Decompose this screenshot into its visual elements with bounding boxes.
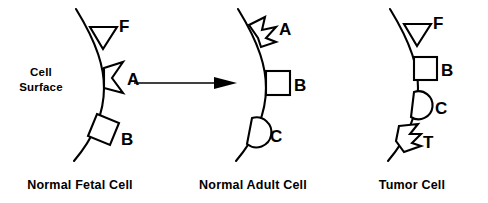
jagged-zigzag-icon	[396, 124, 421, 152]
marker-glyph-b	[414, 57, 437, 80]
marker-label-b: B	[294, 76, 306, 95]
panel-normal-adult-cell: A B C Normal Adult Cell	[199, 9, 307, 192]
figure-canvas: F A B Cell Surface Normal Fetal Cell	[0, 0, 488, 203]
marker-label-f: F	[119, 17, 129, 36]
marker-label-c: C	[270, 127, 282, 146]
square-icon	[266, 71, 290, 95]
transition-arrow	[134, 77, 237, 89]
marker-label-c: C	[435, 99, 447, 118]
panel-caption-normal-fetal-cell: Normal Fetal Cell	[27, 178, 133, 192]
tilted-square-icon	[88, 114, 119, 145]
marker-glyph-b	[88, 114, 119, 145]
marker-label-f: F	[433, 14, 443, 33]
semicircle-icon	[247, 117, 271, 147]
marker-label-b: B	[121, 130, 133, 149]
marker-glyph-t	[396, 124, 421, 152]
jagged-star-icon	[249, 17, 276, 47]
panel-normal-fetal-cell: F A B Cell Surface Normal Fetal Cell	[19, 9, 139, 192]
marker-label-t: T	[423, 133, 434, 152]
notched-chevron-icon	[104, 62, 123, 93]
marker-label-b: B	[441, 61, 453, 80]
semicircle-icon	[411, 91, 433, 119]
cell-surface-label-line1: Cell	[30, 66, 52, 78]
panel-tumor-cell: F B C T Tumor Cell	[379, 9, 453, 192]
marker-glyph-c	[411, 91, 433, 119]
arrow-head-icon	[214, 77, 237, 89]
cell-surface-label-line2: Surface	[19, 81, 63, 93]
marker-glyph-a	[104, 62, 123, 93]
panel-caption-tumor-cell: Tumor Cell	[379, 178, 445, 192]
marker-label-a: A	[279, 20, 291, 39]
panel-caption-normal-adult-cell: Normal Adult Cell	[199, 178, 307, 192]
cell-surface-antigen-diagram: F A B Cell Surface Normal Fetal Cell	[0, 0, 488, 203]
marker-label-a: A	[127, 70, 139, 89]
marker-glyph-c	[247, 117, 271, 147]
marker-glyph-b	[266, 71, 290, 95]
square-icon	[414, 57, 437, 80]
marker-glyph-a	[249, 17, 276, 47]
